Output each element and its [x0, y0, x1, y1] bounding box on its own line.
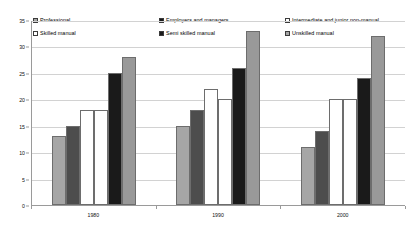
bar[interactable]	[357, 78, 371, 205]
y-tick-mark	[26, 21, 29, 22]
bar[interactable]	[204, 89, 218, 205]
y-axis: 05101520253035	[0, 21, 29, 206]
y-tick-mark	[26, 153, 29, 154]
y-tick-mark	[26, 179, 29, 180]
bar-chart: ProfessionalSkilled manualEmployers and …	[0, 0, 412, 235]
y-tick-label: 20	[19, 97, 25, 103]
bar-group	[156, 21, 280, 205]
bar[interactable]	[190, 110, 204, 205]
bar[interactable]	[80, 110, 94, 205]
bar-group-bars	[52, 21, 136, 205]
y-tick-label: 5	[22, 177, 25, 183]
bar[interactable]	[246, 31, 260, 205]
bar[interactable]	[176, 126, 190, 205]
bar[interactable]	[315, 131, 329, 205]
bar-groups	[32, 21, 405, 205]
bar[interactable]	[218, 99, 232, 205]
bar[interactable]	[371, 36, 385, 205]
y-tick-label: 25	[19, 71, 25, 77]
x-tick-label: 1980	[31, 206, 156, 226]
bar[interactable]	[301, 147, 315, 205]
bar-group	[32, 21, 156, 205]
y-tick-label: 30	[19, 44, 25, 50]
x-tick-mark	[280, 206, 281, 209]
y-tick-mark	[26, 47, 29, 48]
bar[interactable]	[343, 99, 357, 205]
bar[interactable]	[122, 57, 136, 205]
bar[interactable]	[94, 110, 108, 205]
bar-group	[281, 21, 405, 205]
y-tick-mark	[26, 126, 29, 127]
x-tick-mark	[31, 206, 32, 209]
y-tick-mark	[26, 73, 29, 74]
x-tick-mark	[156, 206, 157, 209]
bar-group-bars	[176, 21, 260, 205]
x-axis: 198019902000	[31, 206, 405, 226]
x-tick-label: 1990	[156, 206, 281, 226]
bar[interactable]	[232, 68, 246, 205]
x-tick-label: 2000	[280, 206, 405, 226]
bar-group-bars	[301, 21, 385, 205]
plot-area	[31, 21, 405, 206]
bar[interactable]	[329, 99, 343, 205]
y-tick-label: 35	[19, 18, 25, 24]
y-tick-label: 10	[19, 150, 25, 156]
y-tick-label: 0	[22, 203, 25, 209]
y-tick-mark	[26, 206, 29, 207]
x-tick-mark	[405, 206, 406, 209]
y-tick-label: 15	[19, 124, 25, 130]
bar[interactable]	[66, 126, 80, 205]
bar[interactable]	[108, 73, 122, 205]
y-tick-mark	[26, 100, 29, 101]
bar[interactable]	[52, 136, 66, 205]
